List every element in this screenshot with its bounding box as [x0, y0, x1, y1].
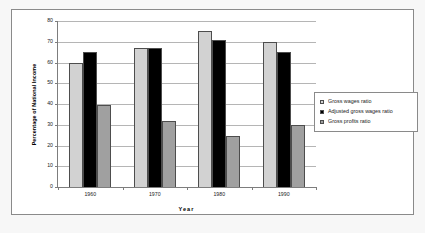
bar — [212, 40, 226, 187]
x-axis-tick-label: 1960 — [84, 192, 96, 197]
y-axis-tick-label: 10 — [47, 164, 53, 169]
x-axis-title: Year — [57, 206, 316, 212]
legend-label: Gross profits ratio — [328, 119, 371, 124]
chart-legend: Gross wages ratioAdjusted gross wages ra… — [314, 92, 418, 132]
bar — [263, 42, 277, 187]
legend-swatch-icon — [320, 110, 324, 114]
x-axis-tick — [123, 187, 124, 190]
y-axis-tick-label: 30 — [47, 122, 53, 127]
chart-frame: Percentage of National Income 0102030405… — [11, 9, 414, 215]
y-axis-tick-label: 0 — [50, 184, 53, 189]
bar — [277, 52, 291, 187]
bar — [83, 52, 97, 187]
bar — [69, 63, 83, 188]
bar — [226, 136, 240, 187]
bar-group — [58, 21, 123, 187]
y-axis-tick-label: 20 — [47, 143, 53, 148]
legend-item: Gross wages ratio — [320, 97, 412, 107]
x-axis-tick — [187, 187, 188, 190]
bar — [162, 121, 176, 187]
legend-item: Gross profits ratio — [320, 117, 412, 127]
y-axis-tick-label: 80 — [47, 18, 53, 23]
legend-label: Gross wages ratio — [328, 99, 371, 104]
bar-group — [187, 21, 252, 187]
bar — [198, 31, 212, 187]
x-axis-tick-label: 1980 — [213, 192, 225, 197]
legend-swatch-icon — [320, 100, 324, 104]
plot-area: 010203040506070801960197019801990 — [57, 21, 316, 188]
y-axis-tick-label: 70 — [47, 39, 53, 44]
x-axis-tick — [252, 187, 253, 190]
bar — [97, 105, 111, 187]
x-axis-tick-label: 1990 — [278, 192, 290, 197]
x-axis-tick — [316, 187, 317, 190]
bar — [134, 48, 148, 187]
y-axis-tick-label: 50 — [47, 81, 53, 86]
chart-figure: Percentage of National Income 0102030405… — [0, 0, 425, 233]
x-axis-tick — [58, 187, 59, 190]
y-axis-tick-label: 40 — [47, 101, 53, 106]
bar — [148, 48, 162, 187]
bar-group — [123, 21, 188, 187]
y-axis-title: Percentage of National Income — [29, 21, 39, 188]
bar-group — [252, 21, 317, 187]
legend-item: Adjusted gross wages ratio — [320, 107, 412, 117]
y-axis-tick-label: 60 — [47, 60, 53, 65]
bar — [291, 125, 305, 187]
x-axis-tick-label: 1970 — [149, 192, 161, 197]
legend-label: Adjusted gross wages ratio — [328, 109, 393, 114]
legend-swatch-icon — [320, 120, 324, 124]
